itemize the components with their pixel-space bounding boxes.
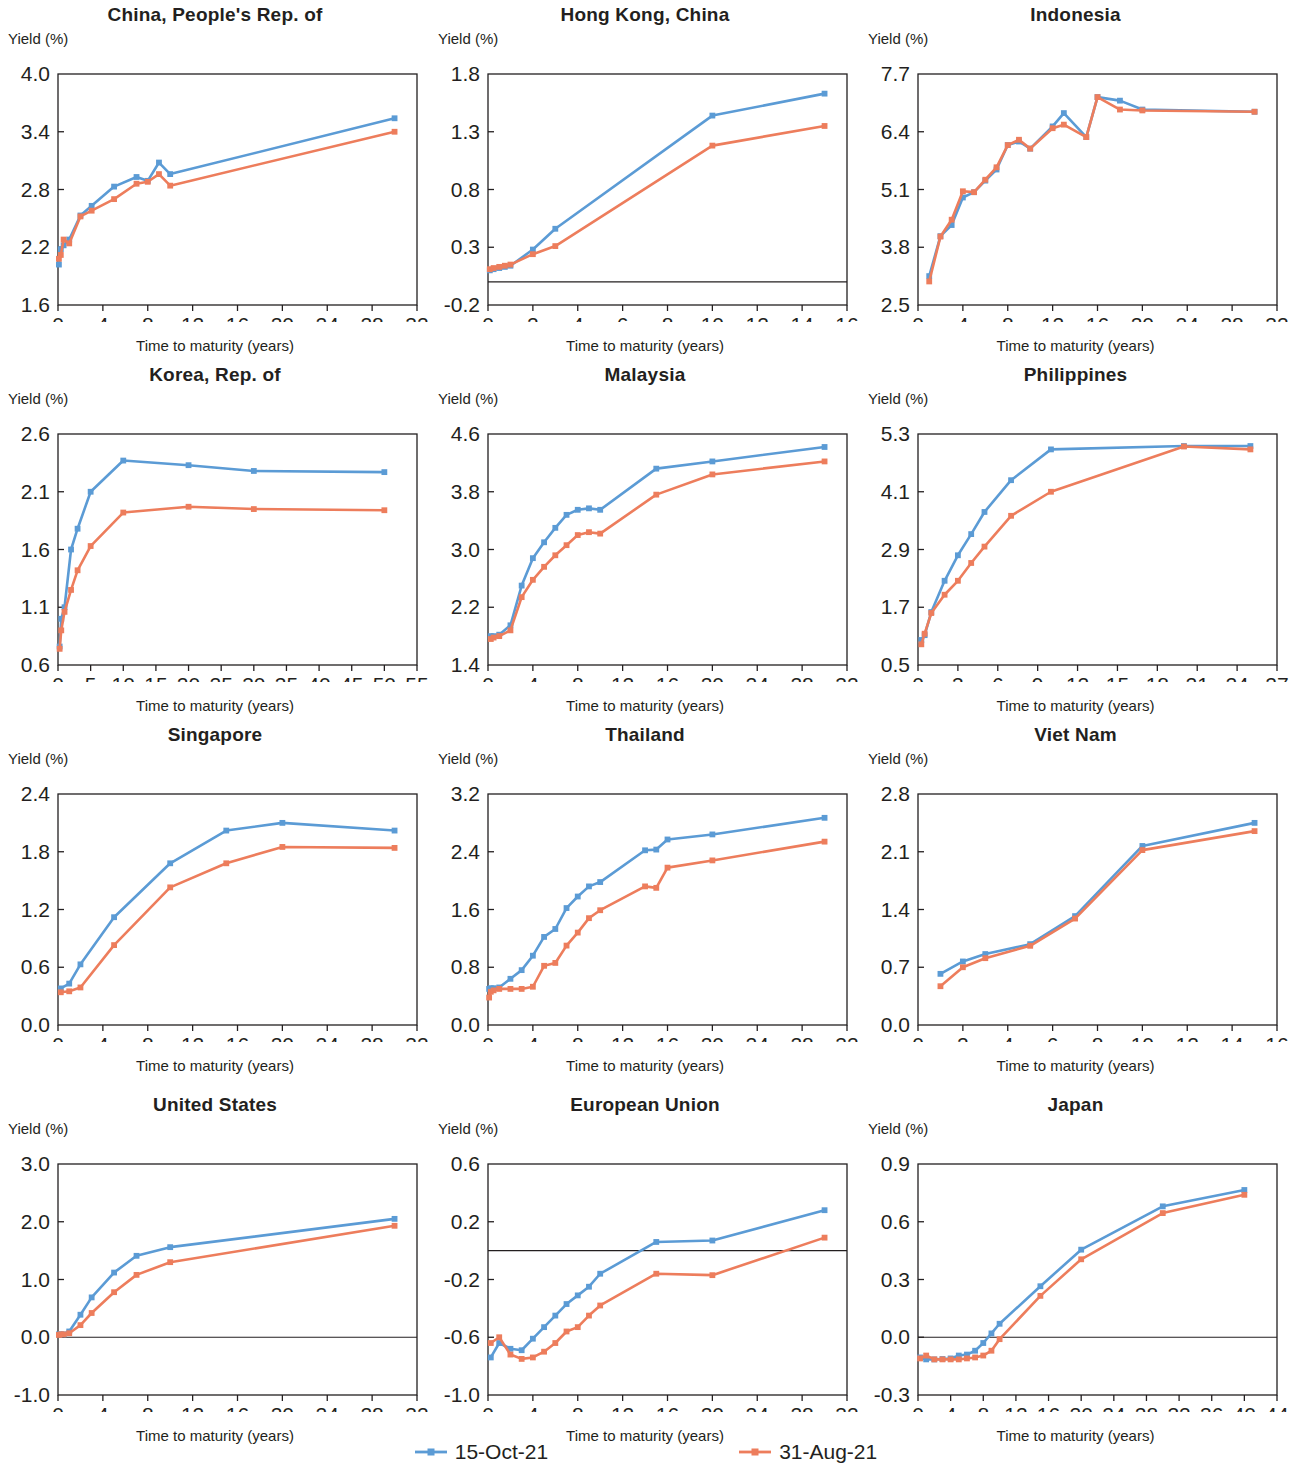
svg-text:1.8: 1.8 (451, 62, 480, 85)
svg-text:0.0: 0.0 (451, 1013, 480, 1036)
svg-text:5: 5 (85, 673, 97, 682)
chart-panel: SingaporeYield (%)0.00.61.21.82.40481216… (0, 720, 430, 1090)
svg-text:28: 28 (360, 313, 383, 322)
svg-text:0.0: 0.0 (881, 1013, 910, 1036)
svg-text:28: 28 (360, 1403, 383, 1412)
svg-text:4.1: 4.1 (881, 480, 910, 503)
svg-text:4.0: 4.0 (21, 62, 50, 85)
chart-panel: European UnionYield (%)-1.0-0.6-0.20.20.… (430, 1090, 860, 1420)
svg-text:-1.0: -1.0 (14, 1383, 50, 1406)
svg-text:24: 24 (746, 1033, 770, 1042)
svg-text:8: 8 (1002, 313, 1014, 322)
chart-panel: China, People's Rep. ofYield (%)1.62.22.… (0, 0, 430, 360)
svg-text:12: 12 (611, 1033, 634, 1042)
svg-text:24: 24 (316, 313, 340, 322)
svg-text:8: 8 (572, 1403, 584, 1412)
svg-text:0.3: 0.3 (451, 235, 480, 258)
svg-text:20: 20 (271, 313, 294, 322)
plot-area: 2.53.85.16.47.7048121620242832 (860, 22, 1290, 322)
svg-text:10: 10 (1131, 1033, 1154, 1042)
plot-area: 0.51.72.94.15.30369121518212427 (860, 382, 1290, 682)
chart-panel: Korea, Rep. ofYield (%)0.61.11.62.12.605… (0, 360, 430, 720)
svg-text:28: 28 (1135, 1403, 1158, 1412)
svg-text:0.6: 0.6 (881, 1210, 910, 1233)
svg-text:2.1: 2.1 (881, 840, 910, 863)
svg-text:8: 8 (662, 313, 674, 322)
svg-text:32: 32 (835, 1033, 858, 1042)
plot-area: -1.00.01.02.03.0048121620242832 (0, 1112, 430, 1412)
svg-text:0.7: 0.7 (881, 955, 910, 978)
chart-panel: PhilippinesYield (%)0.51.72.94.15.303691… (860, 360, 1291, 720)
svg-text:3: 3 (952, 673, 964, 682)
chart-panel: MalaysiaYield (%)1.42.23.03.84.604812162… (430, 360, 860, 720)
plot-area: 0.00.81.62.43.2048121620242832 (430, 742, 860, 1042)
svg-text:0.9: 0.9 (881, 1152, 910, 1175)
svg-text:1.3: 1.3 (451, 120, 480, 143)
svg-text:12: 12 (611, 673, 634, 682)
svg-text:0.0: 0.0 (21, 1325, 50, 1348)
chart-panel: Viet NamYield (%)0.00.71.42.12.802468101… (860, 720, 1291, 1090)
svg-text:10: 10 (701, 313, 724, 322)
svg-text:5.1: 5.1 (881, 178, 910, 201)
svg-text:1.1: 1.1 (21, 595, 50, 618)
svg-text:-0.2: -0.2 (444, 1268, 480, 1291)
svg-text:16: 16 (226, 1403, 249, 1412)
svg-text:-0.6: -0.6 (444, 1325, 480, 1348)
svg-text:5.3: 5.3 (881, 422, 910, 445)
legend-line-icon (738, 1445, 772, 1459)
x-axis-label: Time to maturity (years) (860, 1057, 1291, 1074)
svg-text:2.6: 2.6 (21, 422, 50, 445)
svg-text:27: 27 (1265, 673, 1288, 682)
svg-text:2.9: 2.9 (881, 538, 910, 561)
svg-text:1.0: 1.0 (21, 1268, 50, 1291)
svg-text:32: 32 (1167, 1403, 1190, 1412)
svg-text:10: 10 (112, 673, 135, 682)
svg-text:6: 6 (617, 313, 629, 322)
x-axis-label: Time to maturity (years) (0, 697, 430, 714)
svg-text:2: 2 (957, 1033, 969, 1042)
svg-text:3.8: 3.8 (451, 480, 480, 503)
chart-panel: IndonesiaYield (%)2.53.85.16.47.70481216… (860, 0, 1291, 360)
chart-panel: United StatesYield (%)-1.00.01.02.03.004… (0, 1090, 430, 1420)
svg-text:2.2: 2.2 (21, 235, 50, 258)
svg-text:16: 16 (1265, 1033, 1288, 1042)
svg-text:24: 24 (316, 1403, 340, 1412)
svg-text:4.6: 4.6 (451, 422, 480, 445)
svg-text:0: 0 (482, 1403, 494, 1412)
x-axis-label: Time to maturity (years) (0, 337, 430, 354)
svg-text:40: 40 (307, 673, 330, 682)
svg-text:1.6: 1.6 (21, 293, 50, 316)
svg-text:0: 0 (912, 1403, 924, 1412)
svg-text:36: 36 (1200, 1403, 1223, 1412)
svg-text:28: 28 (790, 1403, 813, 1412)
svg-text:20: 20 (1070, 1403, 1093, 1412)
svg-text:12: 12 (181, 313, 204, 322)
svg-text:20: 20 (271, 1033, 294, 1042)
svg-text:14: 14 (1220, 1033, 1244, 1042)
svg-text:24: 24 (316, 1033, 340, 1042)
svg-text:0.8: 0.8 (451, 178, 480, 201)
plot-area: 1.62.22.83.44.0048121620242832 (0, 22, 430, 322)
x-axis-label: Time to maturity (years) (430, 337, 860, 354)
plot-area: -1.0-0.6-0.20.20.6048121620242832 (430, 1112, 860, 1412)
legend-item: 31-Aug-21 (738, 1440, 877, 1464)
svg-text:16: 16 (656, 673, 679, 682)
svg-text:14: 14 (790, 313, 814, 322)
svg-text:0: 0 (482, 1033, 494, 1042)
svg-text:32: 32 (405, 1403, 428, 1412)
svg-text:4: 4 (957, 313, 969, 322)
svg-text:2.2: 2.2 (451, 595, 480, 618)
svg-text:0: 0 (912, 1033, 924, 1042)
svg-text:2.8: 2.8 (881, 782, 910, 805)
svg-text:28: 28 (1220, 313, 1243, 322)
chart-grid: China, People's Rep. ofYield (%)1.62.22.… (0, 0, 1291, 1420)
svg-text:1.7: 1.7 (881, 595, 910, 618)
svg-text:7.7: 7.7 (881, 62, 910, 85)
svg-text:0: 0 (912, 673, 924, 682)
svg-text:20: 20 (701, 1033, 724, 1042)
svg-text:0.6: 0.6 (21, 653, 50, 676)
chart-panel: ThailandYield (%)0.00.81.62.43.204812162… (430, 720, 860, 1090)
svg-text:20: 20 (177, 673, 200, 682)
legend-line-icon (414, 1445, 448, 1459)
svg-text:0.6: 0.6 (21, 955, 50, 978)
